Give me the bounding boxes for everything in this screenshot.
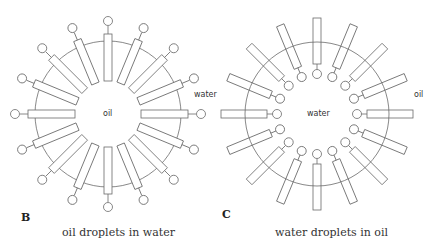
caption-oil-droplets: oil droplets in water <box>62 226 175 239</box>
surfactant-molecule <box>246 136 295 185</box>
outer-label-oil: oil <box>414 90 423 99</box>
surfactant-molecule <box>221 110 282 119</box>
surfactant-molecule <box>339 136 388 185</box>
surfactant-molecule <box>313 150 322 211</box>
surfactant-molecule <box>246 43 295 92</box>
surfactant-molecule <box>276 24 307 83</box>
panel-letter-b: B <box>21 211 30 224</box>
surfactant-molecule <box>227 123 286 154</box>
emulsion-diagram <box>0 0 437 242</box>
surfactant-molecule <box>313 18 322 79</box>
surfactant-molecule <box>348 123 407 154</box>
surfactant-molecule <box>348 73 407 104</box>
caption-water-droplets: water droplets in oil <box>275 226 388 239</box>
surfactant-molecule <box>339 43 388 92</box>
surfactant-molecule <box>104 147 113 212</box>
surfactant-molecule <box>353 110 414 119</box>
surfactant-molecule <box>326 145 357 204</box>
surfactant-molecule <box>326 24 357 83</box>
surfactant-molecule <box>11 110 76 119</box>
inner-label-oil: oil <box>103 109 112 118</box>
outer-label-water: water <box>194 90 217 99</box>
surfactant-molecule <box>104 17 113 82</box>
panel-letter-c: C <box>222 208 231 221</box>
surfactant-molecule <box>227 73 286 104</box>
inner-label-water: water <box>307 109 330 118</box>
surfactant-molecule <box>141 110 206 119</box>
surfactant-molecule <box>276 145 307 204</box>
